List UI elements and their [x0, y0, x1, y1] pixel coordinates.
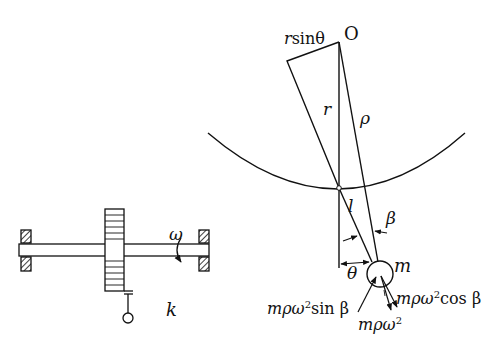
- force-cos-prefix: mρω: [396, 289, 434, 308]
- right-bearing-bottom: [199, 257, 209, 271]
- r-sin-theta-label: rsinθ: [284, 31, 325, 47]
- force-sin-suffix: sin β: [311, 299, 349, 318]
- beta-arrow: [375, 231, 387, 233]
- r-label: r: [323, 101, 331, 118]
- l-label: l: [348, 198, 353, 215]
- rho-line: [339, 42, 378, 262]
- theta-label: θ: [347, 265, 357, 282]
- force-total-prefix: mρω: [358, 315, 396, 334]
- pendulum-bob: [123, 313, 133, 323]
- k-label: k: [166, 301, 177, 319]
- force-cos-suffix: cos β: [440, 289, 481, 308]
- right-bearing-top: [199, 230, 209, 243]
- left-bearing-top: [21, 230, 31, 243]
- r-sin-theta-r: r: [284, 29, 292, 48]
- force-total-label: mρω2: [358, 316, 402, 333]
- force-total-exp: 2: [396, 315, 402, 326]
- origin-label: O: [344, 25, 359, 43]
- rho-label: ρ: [360, 110, 370, 127]
- mass-circle: [367, 261, 393, 287]
- r-sin-theta-rest: sinθ: [292, 29, 325, 48]
- beta-label: β: [386, 210, 396, 227]
- force-sin-label: mρω2sin β: [267, 300, 349, 317]
- force-sin-line: [358, 277, 376, 312]
- pivot-point: [337, 186, 342, 191]
- r-sin-theta-triangle: [287, 42, 339, 188]
- diagram-canvas: ω k O rsinθ r ρ l β θ m mρω2sin β mρω2co…: [0, 0, 497, 352]
- force-sin-prefix: mρω: [267, 299, 305, 318]
- force-cos-label: mρω2cos β: [396, 290, 481, 307]
- angle-arrow-left: [343, 236, 357, 241]
- pendulum-geometry: [208, 42, 465, 312]
- left-bearing-bottom: [21, 257, 31, 271]
- mass-label: m: [394, 257, 411, 275]
- omega-label: ω: [169, 226, 183, 243]
